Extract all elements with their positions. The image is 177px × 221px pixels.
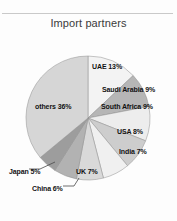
slice-label-uk: UK 7% xyxy=(76,168,98,175)
slice-label-uae: UAE 13% xyxy=(92,63,122,70)
pie-slice-group xyxy=(26,56,150,180)
slice-label-india: India 7% xyxy=(119,148,147,155)
slice-label-others: others 36% xyxy=(35,103,71,110)
slice-label-saudi-arabia: Saudi Arabia 9% xyxy=(102,86,155,93)
slice-label-usa: USA 8% xyxy=(117,128,143,135)
chart-canvas: Import partners UAE 13% Saudi Arabia 9% … xyxy=(0,0,177,221)
slice-label-south-africa: South Africa 9% xyxy=(101,103,153,110)
slice-label-japan: Japan 5% xyxy=(9,168,41,175)
leader-line-china xyxy=(63,178,79,186)
slice-label-china: China 6% xyxy=(32,185,63,192)
top-divider xyxy=(2,13,173,14)
